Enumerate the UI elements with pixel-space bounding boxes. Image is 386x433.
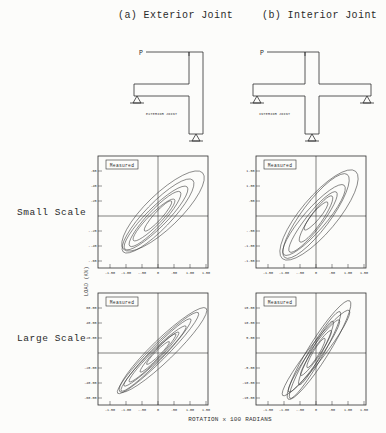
interior-joint-lines bbox=[250, 52, 374, 141]
y-tick-labels: 60.00 40.00 20.00 -20.00 -40.00 -60.00 bbox=[84, 306, 96, 400]
svg-text:-1.50: -1.50 bbox=[105, 408, 115, 412]
svg-text:-1.50: -1.50 bbox=[244, 259, 254, 263]
svg-text:-.50: -.50 bbox=[296, 408, 304, 412]
y-tick-labels: .60 .40 .20 -.20 -.40 -.60 bbox=[88, 169, 96, 263]
svg-text:1.00: 1.00 bbox=[344, 271, 352, 275]
svg-text:-.40: -.40 bbox=[88, 244, 96, 248]
x-tick-labels: -1.50 -1.00 -.50 0 .50 1.00 1.50 bbox=[105, 271, 210, 275]
legend-measured: Measured bbox=[268, 163, 292, 168]
interior-joint-schematic: P INTERIOR JOINT bbox=[247, 44, 377, 144]
tick-marks bbox=[256, 308, 364, 405]
svg-text:1.00: 1.00 bbox=[344, 408, 352, 412]
svg-text:.50: .50 bbox=[329, 408, 335, 412]
svg-text:-.50: -.50 bbox=[138, 271, 146, 275]
svg-text:-.20: -.20 bbox=[88, 229, 96, 233]
load-p-label: P bbox=[260, 50, 264, 57]
svg-text:-1.50: -1.50 bbox=[263, 408, 273, 412]
svg-text:.60: .60 bbox=[90, 169, 96, 173]
plot-small-interior: 1.50 1.00 .50 -.50 -1.00 -1.50 -1.50 -1.… bbox=[240, 152, 370, 288]
svg-text:0: 0 bbox=[315, 408, 317, 412]
svg-text:-.50: -.50 bbox=[138, 408, 146, 412]
hysteresis-loops bbox=[112, 300, 214, 399]
svg-text:-1.50: -1.50 bbox=[105, 271, 115, 275]
load-p-label: P bbox=[139, 50, 143, 57]
svg-text:1.00: 1.00 bbox=[246, 184, 254, 188]
x-tick-labels: -1.50 -1.00 -.50 0 .50 1.00 1.50 bbox=[263, 408, 368, 412]
svg-text:.50: .50 bbox=[329, 271, 335, 275]
svg-text:5.00: 5.00 bbox=[246, 336, 254, 340]
x-tick-labels: -1.50 -1.00 -.50 0 .50 1.00 1.50 bbox=[263, 271, 368, 275]
tick-marks bbox=[98, 171, 206, 268]
svg-text:.50: .50 bbox=[171, 408, 177, 412]
svg-text:.50: .50 bbox=[248, 199, 254, 203]
svg-text:-10.00: -10.00 bbox=[242, 381, 254, 385]
legend-measured: Measured bbox=[110, 163, 134, 168]
exterior-joint-lines bbox=[130, 52, 203, 141]
row-label-small-scale: Small Scale bbox=[17, 207, 86, 218]
tick-marks bbox=[256, 171, 364, 268]
svg-text:1.50: 1.50 bbox=[246, 169, 254, 173]
svg-text:.40: .40 bbox=[90, 184, 96, 188]
svg-text:-.50: -.50 bbox=[296, 271, 304, 275]
svg-text:1.50: 1.50 bbox=[202, 271, 210, 275]
tick-marks bbox=[98, 308, 206, 405]
svg-text:10.00: 10.00 bbox=[244, 321, 254, 325]
svg-text:1.50: 1.50 bbox=[202, 408, 210, 412]
svg-text:-15.00: -15.00 bbox=[242, 396, 254, 400]
svg-text:-1.00: -1.00 bbox=[279, 271, 289, 275]
svg-text:0: 0 bbox=[157, 271, 159, 275]
caption-exterior-joint: (a) Exterior Joint bbox=[118, 10, 233, 21]
hysteresis-loops bbox=[276, 296, 358, 405]
svg-text:-1.50: -1.50 bbox=[263, 271, 273, 275]
plot-large-interior: 15.00 10.00 5.00 -5.00 -10.00 -15.00 -1.… bbox=[240, 289, 370, 425]
svg-text:1.50: 1.50 bbox=[360, 271, 368, 275]
caption-interior-joint: (b) Interior Joint bbox=[262, 10, 377, 21]
svg-text:1.00: 1.00 bbox=[186, 408, 194, 412]
svg-text:15.00: 15.00 bbox=[244, 306, 254, 310]
svg-text:1.00: 1.00 bbox=[186, 271, 194, 275]
svg-text:0: 0 bbox=[315, 271, 317, 275]
svg-text:60.00: 60.00 bbox=[86, 306, 96, 310]
y-tick-labels: 1.50 1.00 .50 -.50 -1.00 -1.50 bbox=[244, 169, 254, 263]
row-label-large-scale: Large Scale bbox=[17, 333, 86, 344]
svg-text:-20.00: -20.00 bbox=[84, 366, 96, 370]
hysteresis-loops bbox=[269, 160, 370, 270]
svg-text:-60.00: -60.00 bbox=[84, 396, 96, 400]
plot-large-exterior: 60.00 40.00 20.00 -20.00 -40.00 -60.00 -… bbox=[82, 289, 212, 425]
svg-text:1.50: 1.50 bbox=[360, 408, 368, 412]
svg-text:.20: .20 bbox=[90, 199, 96, 203]
figure-page: (a) Exterior Joint (b) Interior Joint P … bbox=[0, 0, 386, 433]
svg-text:-40.00: -40.00 bbox=[84, 381, 96, 385]
svg-text:-1.00: -1.00 bbox=[279, 408, 289, 412]
svg-text:-1.00: -1.00 bbox=[121, 408, 131, 412]
hysteresis-loops bbox=[112, 161, 215, 262]
svg-text:-.50: -.50 bbox=[246, 229, 254, 233]
y-tick-labels: 15.00 10.00 5.00 -5.00 -10.00 -15.00 bbox=[242, 306, 254, 400]
legend-measured: Measured bbox=[110, 300, 134, 305]
svg-text:-1.00: -1.00 bbox=[244, 244, 254, 248]
plot-small-exterior: .60 .40 .20 -.20 -.40 -.60 -1.50 -1.00 -… bbox=[82, 152, 212, 288]
svg-text:.50: .50 bbox=[171, 271, 177, 275]
x-tick-labels: -1.50 -1.00 -.50 0 .50 1.00 1.50 bbox=[105, 408, 210, 412]
svg-text:20.00: 20.00 bbox=[86, 336, 96, 340]
svg-text:-5.00: -5.00 bbox=[244, 366, 254, 370]
legend-measured: Measured bbox=[268, 300, 292, 305]
exterior-joint-schematic: P EXTERIOR JOINT bbox=[106, 44, 226, 144]
svg-text:40.00: 40.00 bbox=[86, 321, 96, 325]
svg-text:-1.00: -1.00 bbox=[121, 271, 131, 275]
svg-text:-.60: -.60 bbox=[88, 259, 96, 263]
svg-text:0: 0 bbox=[157, 408, 159, 412]
interior-joint-label: INTERIOR JOINT bbox=[259, 112, 290, 116]
exterior-joint-label: EXTERIOR JOINT bbox=[146, 112, 177, 116]
